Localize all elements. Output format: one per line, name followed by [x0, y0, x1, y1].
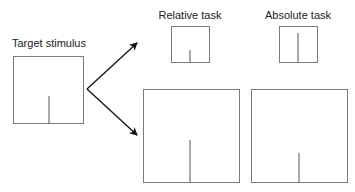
relative-task-label: Relative task [159, 9, 222, 21]
absolute-task-small-frame [280, 27, 318, 63]
absolute-task-large-frame [252, 90, 348, 183]
target-stimulus-label: Target stimulus [12, 37, 86, 49]
target-stimulus [14, 57, 84, 124]
absolute-task-label: Absolute task [265, 9, 332, 21]
stimulus-diagram: Target stimulus Relative task Absolute t… [0, 0, 355, 192]
arrow-up-icon [87, 43, 137, 89]
arrow-down-icon [87, 89, 137, 135]
relative-task-large-frame [144, 90, 240, 183]
relative-task-small-frame [172, 27, 210, 63]
